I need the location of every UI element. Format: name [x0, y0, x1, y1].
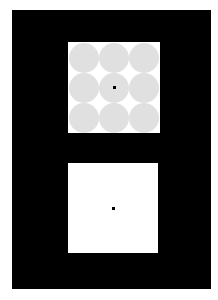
circle-grid-stimulus: [68, 42, 160, 133]
circle: [99, 103, 129, 133]
fixation-dot: [113, 86, 116, 89]
fixation-dot: [112, 207, 115, 210]
circle: [129, 73, 159, 103]
circle: [99, 43, 129, 73]
circle: [69, 43, 99, 73]
circle: [129, 103, 159, 133]
circle: [69, 73, 99, 103]
blank-stimulus: [68, 163, 158, 253]
circle: [69, 103, 99, 133]
circle: [129, 43, 159, 73]
